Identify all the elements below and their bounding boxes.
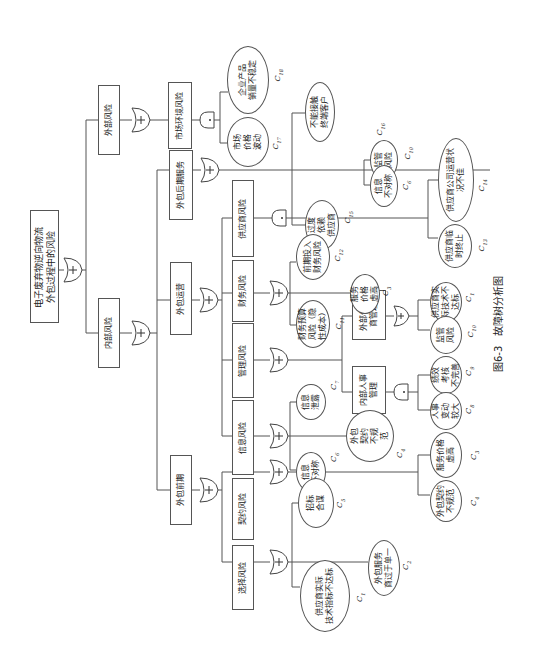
basic-event-c3-b: 服务价格 虚高	[430, 432, 462, 478]
figure-title: 故障树分析图	[493, 276, 504, 336]
basic-event-c8: 人事 变动 较大	[430, 392, 462, 430]
finance-risk-label: 财务风险	[238, 275, 248, 307]
figure-number: 图6-3	[493, 346, 504, 372]
basic-event-c12: 前期投入 财务风险	[296, 234, 330, 280]
contract-risk-label: 契约风险	[238, 493, 248, 525]
code-c13: C13	[477, 239, 488, 252]
operation-label: 外包运营	[176, 283, 186, 315]
code-c10-a: C10	[403, 147, 414, 160]
code-c11: C11	[334, 317, 345, 330]
code-c14: C14	[477, 179, 488, 192]
basic-event-c13: 供应商临 时终止	[438, 224, 472, 268]
basic-event-c17: 市场 价格 波动	[227, 117, 269, 167]
code-c10-b: C10	[466, 325, 477, 338]
figure-caption: 图6-3 故障树分析图	[490, 276, 505, 372]
basic-event-c7: 信息 泄露	[296, 384, 326, 420]
basic-event-c9: 绩效 考核 不完善	[430, 356, 462, 394]
basic-event-c2: 外包服务 商过于单一	[368, 540, 400, 596]
code-c2: C2	[401, 561, 412, 570]
code-c18: C18	[273, 69, 284, 82]
code-c1: C1	[355, 593, 366, 602]
after-service-label: 外包后期服务	[176, 161, 186, 209]
internal-risk-label: 内部风险	[104, 317, 114, 349]
internal-risk-box: 内部风险	[98, 298, 120, 368]
pre-stage-box: 外包前期	[170, 455, 192, 525]
basic-event-c4-a: 外包 契约 不规 范	[346, 410, 394, 462]
basic-event-c14: 供应商公司运营状 况不佳	[438, 138, 474, 222]
code-c16: C16	[375, 123, 386, 136]
fault-tree-diagram: 电子废弃物逆向物流 外包过程中的风险 外部风险 内部风险 市场环境风险 外包后期…	[0, 0, 533, 658]
code-c3: C3	[381, 287, 392, 296]
pre-stage-label: 外包前期	[176, 474, 186, 506]
basic-event-c11: 财务预算 风险（隐 性成本）	[296, 300, 330, 348]
code-c6-a: C6	[401, 181, 412, 190]
after-service-box: 外包后期服务	[169, 150, 193, 220]
selection-risk-label: 选择风险	[238, 562, 248, 594]
code-c7: C7	[329, 381, 340, 390]
internal-hr-mgmt-label: 内部人事 管理	[359, 374, 379, 406]
basic-event-c10-b: 监管 风险	[430, 316, 462, 354]
internal-hr-mgmt-box: 内部人事 管理	[352, 366, 386, 414]
supplier-risk-box: 供应商风险	[232, 180, 254, 257]
basic-event-c3: 服务 价格 虚高	[350, 274, 380, 314]
market-environment-risk-box: 市场环境风险	[168, 82, 192, 149]
code-c1-b: C1	[464, 293, 475, 302]
code-c4-a: C4	[395, 449, 406, 458]
top-event-box: 电子废弃物逆向物流 外包过程中的风险	[30, 210, 59, 323]
basic-event-c4-b: 外包契约 不规范	[430, 480, 462, 522]
basic-event-c6-a: 信息 不对称	[370, 165, 398, 207]
code-c3-b: C3	[469, 451, 480, 460]
selection-risk-box: 选择风险	[232, 545, 254, 610]
code-c8: C8	[464, 405, 475, 414]
basic-event-c16-customer: 不能接触 终端客户	[305, 82, 335, 142]
code-c15: C15	[343, 211, 354, 224]
contract-risk-box: 契约风险	[232, 478, 254, 540]
code-c12: C12	[333, 249, 344, 262]
basic-event-c1: 供应商实际 技术指标不达标	[300, 560, 350, 632]
management-risk-box: 管理风险	[232, 323, 254, 398]
code-c9: C9	[464, 367, 475, 376]
finance-risk-box: 财务风险	[232, 260, 254, 322]
code-c4-b: C4	[469, 497, 480, 506]
market-environment-risk-label: 市场环境风险	[175, 92, 185, 140]
external-risk-label: 外部风险	[104, 104, 114, 136]
information-risk-box: 信息风险	[232, 400, 254, 475]
operation-box: 外包运营	[170, 262, 192, 335]
code-c6-b: C6	[329, 453, 340, 462]
basic-event-c18: 企业产品 销量不稳定	[227, 46, 269, 114]
basic-event-c5: 招标 合谋	[298, 478, 334, 528]
code-c5: C5	[335, 499, 346, 508]
management-risk-label: 管理风险	[238, 345, 248, 377]
external-risk-box: 外部风险	[98, 85, 120, 155]
supplier-risk-label: 供应商风险	[238, 199, 248, 239]
top-event-label: 电子废弃物逆向物流 外包过程中的风险	[33, 226, 57, 307]
code-c17: C17	[271, 137, 282, 150]
information-risk-label: 信息风险	[238, 422, 248, 454]
